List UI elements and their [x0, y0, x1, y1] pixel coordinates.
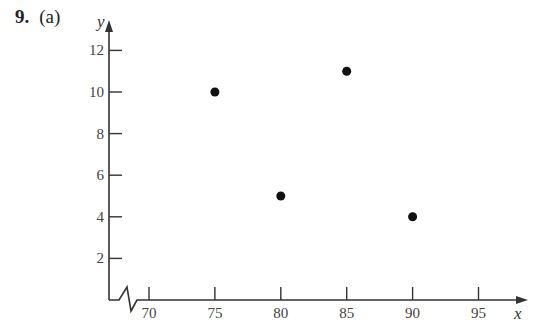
data-point	[276, 192, 285, 201]
y-tick-label: 8	[97, 126, 105, 142]
data-point	[210, 88, 219, 97]
ticks: 24681012707580859095	[89, 42, 486, 321]
y-tick-label: 4	[97, 209, 105, 225]
y-tick-label: 6	[97, 167, 105, 183]
data-points	[210, 67, 417, 222]
x-tick-label: 70	[142, 305, 157, 321]
x-tick-label: 85	[339, 305, 354, 321]
x-axis-label: x	[513, 304, 522, 323]
y-tick-label: 2	[97, 250, 105, 266]
x-axis-line-with-break	[109, 287, 520, 311]
x-tick-label: 80	[273, 305, 288, 321]
data-point	[342, 67, 351, 76]
x-tick-label: 95	[471, 305, 486, 321]
axes: yx	[95, 12, 528, 323]
y-tick-label: 10	[89, 84, 104, 100]
data-point	[408, 212, 417, 221]
x-axis-arrow-icon	[516, 296, 528, 304]
x-tick-label: 75	[207, 305, 222, 321]
y-tick-label: 12	[89, 42, 104, 58]
scatter-chart: yx 24681012707580859095	[0, 0, 541, 324]
x-tick-label: 90	[405, 305, 420, 321]
y-axis-arrow-icon	[105, 20, 113, 32]
y-axis-label: y	[95, 12, 105, 31]
